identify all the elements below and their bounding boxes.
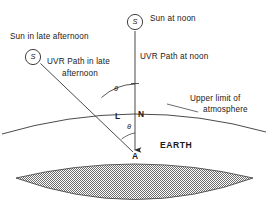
uvr-path-diagram: S Sun at noon S Sun in late afternoon UV… (0, 0, 267, 214)
point-n-label: N (138, 110, 144, 119)
upper-limit-label-line1: Upper limit of (190, 95, 240, 104)
angle-theta-lower-label: θ (127, 123, 131, 131)
angle-theta-upper-label: θ (114, 85, 118, 93)
earth-body (16, 164, 253, 200)
upper-limit-label-line2: atmosphere (203, 106, 248, 115)
earth-label: EARTH (160, 141, 192, 150)
uvr-path-noon-label: UVR Path at noon (140, 53, 208, 62)
atmosphere-arc (2, 114, 266, 134)
point-a-label: A (132, 152, 138, 161)
sun-noon-label: Sun at noon (150, 15, 196, 24)
sun-noon-symbol: S (129, 18, 141, 26)
sun-afternoon-symbol: S (27, 53, 39, 61)
angle-theta-lower-arc (122, 133, 136, 139)
uvr-path-afternoon-label-line2: afternoon (62, 70, 98, 79)
atmosphere-leader-line (167, 104, 198, 112)
angle-theta-upper-arc (102, 84, 136, 98)
sun-afternoon-label: Sun in late afternoon (10, 33, 89, 42)
uvr-path-afternoon-label-line1: UVR Path in late (47, 58, 110, 67)
point-l-label: L (115, 112, 120, 121)
